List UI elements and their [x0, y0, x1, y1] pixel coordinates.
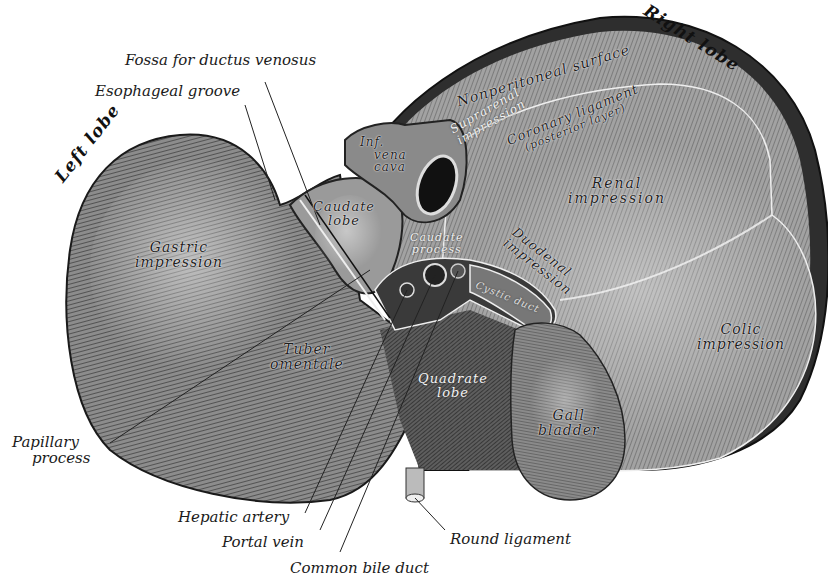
- label-inferior-vena-cava: Inf. vena cava: [360, 136, 407, 174]
- label-quadrate-lobe: Quadrate lobe: [418, 372, 488, 399]
- label-esophageal-groove: Esophageal groove: [95, 84, 240, 100]
- renal-line2: impression: [568, 191, 666, 206]
- colic-line1: Colic: [697, 322, 785, 337]
- gastric-line1: Gastric: [135, 240, 223, 255]
- label-portal-vein: Portal vein: [222, 535, 304, 551]
- label-gastric-impression: Gastric impression: [135, 240, 223, 269]
- label-renal-impression: Renal impression: [568, 176, 666, 205]
- tuber-line1: Tuber: [270, 342, 344, 357]
- label-colic-impression: Colic impression: [697, 322, 785, 351]
- quadrate-line2: lobe: [418, 386, 488, 400]
- label-hepatic-artery: Hepatic artery: [178, 510, 289, 526]
- label-common-bile-duct: Common bile duct: [290, 561, 429, 577]
- caudate-process-line1: Caudate: [410, 232, 464, 244]
- label-papillary-process: Papillary process: [12, 435, 90, 467]
- ivc-line3: cava: [360, 161, 407, 174]
- label-gall-bladder: Gall bladder: [538, 408, 600, 437]
- label-papillary-line2: process: [12, 451, 90, 467]
- caudate-lobe-line1: Caudate: [313, 200, 375, 214]
- ivc-line1: Inf.: [360, 136, 407, 149]
- label-tuber-omentale: Tuber omentale: [270, 342, 344, 371]
- liver-illustration: Left lobe Right lobe Fossa for ductus ve…: [0, 0, 828, 587]
- label-fossa-ductus-venosus: Fossa for ductus venosus: [125, 53, 316, 69]
- colic-line2: impression: [697, 337, 785, 352]
- gall-line2: bladder: [538, 423, 600, 438]
- gall-line1: Gall: [538, 408, 600, 423]
- label-round-ligament: Round ligament: [450, 532, 571, 548]
- renal-line1: Renal: [568, 176, 666, 191]
- label-caudate-lobe: Caudate lobe: [313, 200, 375, 227]
- label-caudate-process: Caudate process: [410, 232, 464, 255]
- caudate-process-line2: process: [410, 244, 464, 256]
- gastric-line2: impression: [135, 255, 223, 270]
- quadrate-line1: Quadrate: [418, 372, 488, 386]
- caudate-lobe-line2: lobe: [313, 214, 375, 228]
- tuber-line2: omentale: [270, 357, 344, 372]
